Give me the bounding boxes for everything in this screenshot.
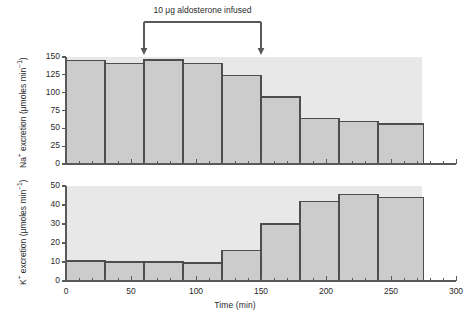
bar	[144, 262, 183, 281]
x-tick-label: 100	[180, 286, 212, 296]
bar	[144, 60, 183, 164]
bar	[339, 121, 378, 164]
x-axis-title: Time (min)	[0, 300, 470, 310]
x-tick-label: 150	[245, 286, 277, 296]
bar	[300, 118, 339, 164]
bar	[105, 63, 144, 164]
bar	[222, 76, 261, 164]
y-tick-label: 30	[32, 218, 60, 228]
y-tick-label: 10	[32, 256, 60, 266]
potassium-y-axis-title: K+ excretion (μmoles min−1)	[18, 180, 28, 285]
bar	[300, 201, 339, 281]
bar	[261, 97, 300, 164]
y-tick-label: 0	[32, 275, 60, 285]
arrow-head-down-icon	[141, 48, 148, 55]
bar	[378, 197, 424, 281]
y-tick-label: 0	[32, 158, 60, 168]
bar	[66, 261, 105, 281]
y-tick-label: 125	[32, 69, 60, 79]
bar	[66, 61, 105, 164]
bar	[261, 224, 300, 281]
y-tick-label: 100	[32, 87, 60, 97]
bar	[183, 263, 222, 281]
x-tick-label: 300	[440, 286, 470, 296]
infusion-annotation	[141, 22, 265, 55]
figure-canvas: 0255075100125150010203040500501001502002…	[0, 0, 470, 326]
infusion-annotation-label: 10 μg aldosterone infused	[141, 5, 265, 15]
y-tick-label: 150	[32, 51, 60, 61]
x-tick-label: 200	[310, 286, 342, 296]
y-tick-label: 50	[32, 180, 60, 190]
bar	[222, 251, 261, 281]
arrow-head-down-icon	[258, 48, 265, 55]
bar	[105, 262, 144, 281]
y-tick-label: 25	[32, 140, 60, 150]
bar	[183, 63, 222, 164]
bar	[378, 124, 424, 164]
y-tick-label: 50	[32, 122, 60, 132]
y-tick-label: 75	[32, 105, 60, 115]
y-tick-label: 40	[32, 199, 60, 209]
sodium-y-axis-title: Na+ excretion (μmoles min−1)	[18, 57, 28, 168]
chart-svg	[0, 0, 470, 326]
x-tick-label: 50	[115, 286, 147, 296]
bar	[339, 195, 378, 281]
x-tick-label: 0	[50, 286, 82, 296]
y-tick-label: 20	[32, 237, 60, 247]
x-tick-label: 250	[375, 286, 407, 296]
